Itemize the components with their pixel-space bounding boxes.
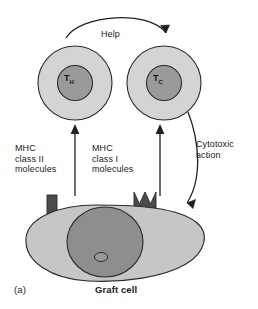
helper-t-cell-subscript: H — [70, 79, 74, 85]
immunology-graft-rejection-diagram: TH TC Help MHC class II molecules MHC cl… — [0, 0, 258, 309]
cytotoxic-action-arrow — [187, 112, 198, 209]
cytotoxic-t-cell — [127, 46, 201, 120]
mhc-class-ii-presentation-arrow — [71, 124, 80, 196]
mhc-class-i-presentation-arrow — [156, 124, 165, 196]
mhc-class-ii-label: MHC class II molecules — [15, 143, 56, 175]
cytotoxic-t-cell-subscript: C — [159, 79, 163, 85]
panel-label: (a) — [14, 285, 26, 296]
help-label: Help — [101, 29, 120, 40]
graft-cell — [26, 205, 204, 281]
cytotoxic-action-label: Cytotoxic action — [196, 139, 234, 160]
cytotoxic-t-cell-label: TC — [153, 73, 163, 85]
mhc-class-i-label: MHC class I molecules — [92, 143, 133, 175]
helper-t-cell — [38, 46, 112, 120]
graft-cell-caption: Graft cell — [95, 285, 137, 296]
helper-t-cell-label: TH — [64, 73, 74, 85]
